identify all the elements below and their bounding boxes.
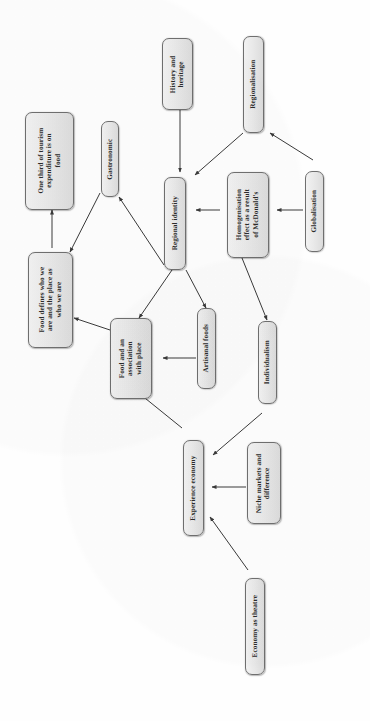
edge-regional-identity-to-gastronomic: [119, 197, 164, 265]
node-economy-as-theatre[interactable]: Economy as theatre: [245, 578, 265, 675]
node-homogenisation[interactable]: Homogenisation effect as a result of McD…: [227, 172, 269, 258]
node-one-third-label: One third of tourism expenditure is on f…: [37, 128, 62, 194]
figure-diagram: One third of tourism expenditure is on f…: [0, 0, 370, 721]
node-history-heritage[interactable]: History and heritage: [162, 38, 193, 110]
node-globalisation-label: Globalisation: [310, 190, 318, 232]
node-homogenisation-label: Homogenisation effect as a result of McD…: [235, 189, 260, 240]
node-food-defines[interactable]: Food defines who we are and the place as…: [28, 252, 73, 348]
node-history-heritage-label: History and heritage: [169, 55, 186, 93]
node-regionalisation-label: Regionalisation: [249, 60, 257, 109]
scanned-book-page: One third of tourism expenditure is on f…: [0, 0, 370, 721]
node-food-and-place-label: Food and an association with place: [118, 339, 143, 378]
node-artisanal-foods[interactable]: Artisanal foods: [197, 308, 216, 389]
edge-globalisation-to-regionalisation: [270, 133, 313, 160]
node-one-third[interactable]: One third of tourism expenditure is on f…: [25, 112, 74, 210]
edge-regional-identity-to-food-place: [139, 270, 172, 318]
edge-regional-identity-to-artisanal: [186, 270, 206, 308]
node-individualism[interactable]: Individualism: [258, 321, 277, 404]
figure-caption: Figure 17.8 Making the difference: The e…: [357, 715, 368, 721]
node-regional-identity-label: Regional identity: [171, 196, 179, 250]
edge-food-place-to-food-defines: [74, 318, 110, 330]
node-regionalisation[interactable]: Regionalisation: [243, 36, 264, 133]
node-economy-as-theatre-label: Economy as theatre: [251, 595, 259, 657]
node-regional-identity[interactable]: Regional identity: [164, 177, 186, 270]
node-food-defines-label: Food defines who we are and the place as…: [38, 267, 63, 333]
node-globalisation[interactable]: Globalisation: [305, 171, 324, 252]
node-niche-markets[interactable]: Niche markets and difference: [247, 442, 281, 524]
edge-theatre-to-experience: [210, 517, 248, 570]
node-niche-markets-label: Niche markets and difference: [256, 453, 273, 513]
edge-gastronomic-to-food-defines: [70, 193, 100, 252]
edge-regionalisation-to-regional-identity: [195, 133, 243, 175]
node-food-and-place[interactable]: Food and an association with place: [110, 318, 152, 399]
edge-homogenisation-to-individualism: [242, 258, 267, 320]
node-gastronomic[interactable]: Gastronomic: [101, 121, 119, 197]
node-experience-economy-label: Experience economy: [189, 455, 197, 520]
node-experience-economy[interactable]: Experience economy: [183, 440, 204, 536]
node-artisanal-foods-label: Artisanal foods: [202, 324, 210, 372]
node-gastronomic-label: Gastronomic: [106, 139, 114, 180]
node-individualism-label: Individualism: [263, 340, 271, 384]
